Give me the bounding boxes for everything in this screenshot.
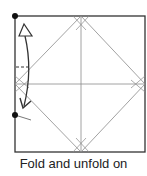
origami-diagram <box>0 0 147 156</box>
step-caption: Fold and unfold on <box>0 156 147 171</box>
top-left-dot <box>12 13 18 19</box>
left-mid-dot <box>12 112 18 118</box>
